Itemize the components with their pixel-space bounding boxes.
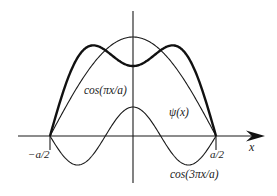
label-cos-3pi-x-over-a: cos(3πx/a): [170, 168, 219, 181]
diagram-canvas: cos(πx/a) ψ(x) cos(3πx/a) −a/2 a/2 x: [0, 0, 277, 196]
label-neg-half-a: −a/2: [28, 148, 50, 160]
label-cos-pi-x-over-a: cos(πx/a): [84, 84, 127, 97]
label-pos-half-a: a/2: [210, 148, 225, 160]
label-psi: ψ(x): [169, 106, 189, 119]
wavefunction-diagram: cos(πx/a) ψ(x) cos(3πx/a) −a/2 a/2 x: [0, 0, 277, 196]
label-x-axis: x: [248, 140, 255, 154]
